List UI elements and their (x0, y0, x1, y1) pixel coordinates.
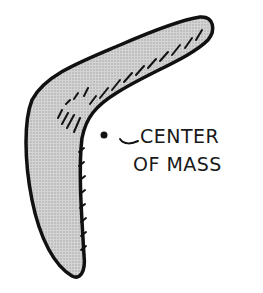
boomerang-drawing (0, 0, 263, 293)
center-of-mass-label-line1: CENTER (140, 127, 219, 146)
leader-line (120, 139, 138, 143)
boomerang-illustration: CENTER OF MASS (0, 0, 263, 293)
center-of-mass-label-line2: OF MASS (133, 155, 222, 174)
center-of-mass-dot (101, 132, 108, 139)
